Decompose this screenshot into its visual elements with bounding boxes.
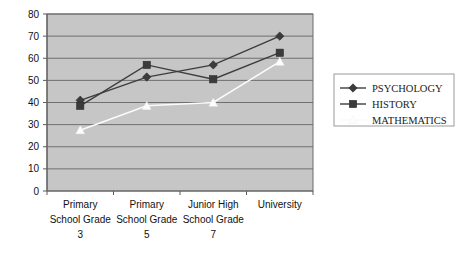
y-tick-label: 10 — [28, 163, 40, 174]
square-data-marker — [349, 100, 356, 107]
x-tick-label: University — [258, 199, 302, 210]
y-tick-label: 30 — [28, 119, 40, 130]
y-axis-tick-labels: 01020304050607080 — [28, 9, 40, 197]
square-data-marker — [210, 76, 217, 83]
chart-canvas: 01020304050607080 PrimarySchool Grade3Pr… — [0, 0, 460, 253]
x-tick-label: School Grade — [183, 214, 245, 225]
x-tick-label: School Grade — [116, 214, 178, 225]
x-tick-label: Primary — [130, 199, 164, 210]
y-tick-label: 50 — [28, 75, 40, 86]
y-tick-label: 80 — [28, 9, 40, 20]
square-data-marker — [77, 102, 84, 109]
chart-legend: PSYCHOLOGYHISTORYMATHEMATICS — [334, 74, 454, 126]
line-chart-figure: 01020304050607080 PrimarySchool Grade3Pr… — [0, 0, 460, 253]
x-tick-label: 7 — [210, 229, 216, 240]
y-tick-label: 40 — [28, 97, 40, 108]
square-data-marker — [276, 49, 283, 56]
y-tick-label: 60 — [28, 53, 40, 64]
legend-label: PSYCHOLOGY — [372, 83, 443, 94]
y-tick-label: 20 — [28, 141, 40, 152]
legend-label: HISTORY — [372, 99, 417, 110]
x-tick-label: 3 — [77, 229, 83, 240]
x-tick-label: 5 — [144, 229, 150, 240]
legend-label: MATHEMATICS — [372, 115, 447, 126]
y-tick-label: 0 — [33, 186, 39, 197]
square-data-marker — [143, 61, 150, 68]
x-tick-label: Primary — [63, 199, 97, 210]
y-tick-label: 70 — [28, 31, 40, 42]
x-tick-label: School Grade — [50, 214, 112, 225]
x-tick-label: Junior High — [188, 199, 239, 210]
